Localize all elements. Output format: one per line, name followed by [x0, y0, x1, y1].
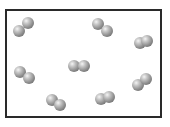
diatomic-molecule — [134, 35, 153, 49]
diatomic-molecule — [46, 94, 66, 111]
atom-sphere-icon — [101, 25, 113, 37]
atom-sphere-icon — [141, 35, 153, 47]
diatomic-molecule — [68, 60, 90, 72]
atom-sphere-icon — [23, 72, 35, 84]
diatomic-molecule — [14, 66, 35, 84]
atom-sphere-icon — [22, 17, 34, 29]
diatomic-molecule — [95, 91, 115, 105]
molecules-layer — [0, 0, 170, 127]
diatomic-molecule — [92, 18, 113, 37]
atom-sphere-icon — [140, 73, 152, 85]
atom-sphere-icon — [78, 60, 90, 72]
atom-sphere-icon — [103, 91, 115, 103]
diatomic-molecule — [132, 73, 152, 91]
atom-sphere-icon — [13, 25, 25, 37]
diatomic-molecule — [13, 17, 34, 37]
atom-sphere-icon — [54, 99, 66, 111]
